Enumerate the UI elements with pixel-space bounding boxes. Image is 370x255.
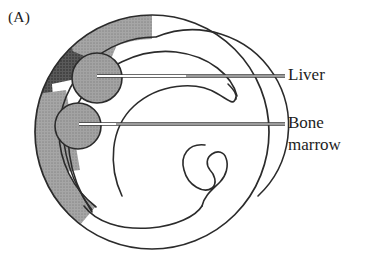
figure-panel-a: (A) Liver Bone marrow <box>0 0 370 255</box>
callout-label-liver: Liver <box>288 64 325 86</box>
bone-marrow-organ[interactable] <box>55 103 101 149</box>
embryo-tip-detail <box>228 84 236 99</box>
callout-label-bone-marrow: Bone marrow <box>288 112 341 156</box>
panel-label: (A) <box>8 8 30 26</box>
embryo-limb-bud-outline <box>183 145 227 206</box>
embryo-ventral-outline <box>113 86 236 196</box>
liver-organ[interactable] <box>72 53 122 103</box>
embryo-lower-trunk-outline <box>84 206 202 228</box>
